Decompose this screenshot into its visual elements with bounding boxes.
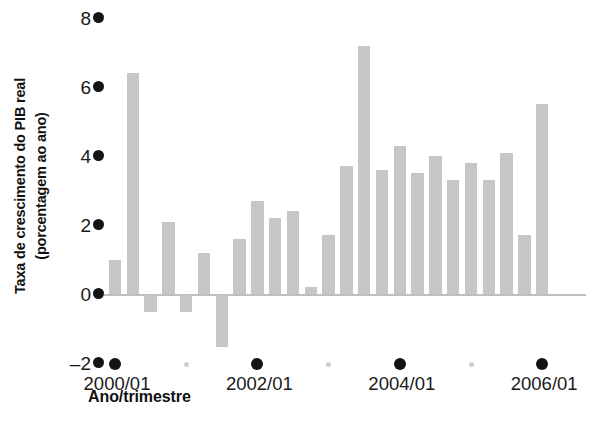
bar	[358, 46, 371, 294]
bar	[144, 295, 157, 312]
bar	[376, 170, 389, 294]
y-axis-tick: 0	[59, 284, 104, 304]
bar	[429, 156, 442, 294]
bar	[216, 295, 229, 347]
bar	[251, 201, 264, 294]
y-axis-tick-dot	[93, 81, 104, 92]
y-axis-tick-label: 4	[65, 147, 91, 167]
x-axis-tick-label: 2004/01	[347, 373, 457, 395]
y-axis-title-line-1: Taxa de crescimento do PIB real	[10, 78, 31, 294]
bar	[287, 211, 300, 294]
bar	[411, 173, 424, 294]
y-axis-tick: 8	[59, 8, 104, 28]
bar	[109, 260, 122, 295]
x-axis-minor-tick-dot	[326, 362, 331, 367]
y-axis-tick: 4	[59, 146, 104, 166]
x-axis-major-tick-dot	[536, 358, 548, 370]
y-axis-tick-label: 0	[65, 285, 91, 305]
bar	[447, 180, 460, 294]
y-axis-tick-dot	[93, 288, 104, 299]
y-axis-title-line-2: (porcentagem ao ano)	[31, 78, 52, 294]
bar	[483, 180, 496, 294]
bar	[233, 239, 246, 294]
bar	[180, 295, 193, 312]
plot-area	[104, 18, 586, 358]
bar	[269, 218, 282, 294]
y-axis-tick: –2	[59, 353, 104, 373]
y-axis-tick-dot	[93, 357, 104, 368]
x-axis-major-tick-dot	[251, 358, 263, 370]
y-axis-tick: 2	[59, 215, 104, 235]
bar	[162, 222, 175, 294]
bar	[305, 287, 318, 294]
y-axis-tick-dot	[93, 150, 104, 161]
x-axis-tick-label: 2006/01	[489, 373, 599, 395]
x-axis-major-tick-dot	[109, 358, 121, 370]
y-axis-tick-dot	[93, 12, 104, 23]
x-axis-title: Ano/trimestre	[88, 388, 191, 406]
bar	[500, 153, 513, 294]
y-axis-tick-label: 8	[65, 9, 91, 29]
x-axis-major-tick-dot	[394, 358, 406, 370]
bar	[340, 166, 353, 294]
bar	[322, 235, 335, 294]
y-axis-tick-label: 6	[65, 78, 91, 98]
y-axis-title: Taxa de crescimento do PIB real (porcent…	[0, 0, 62, 372]
y-axis-tick: 6	[59, 77, 104, 97]
x-axis-minor-tick-dot	[184, 362, 189, 367]
y-axis-tick-label: –2	[65, 354, 91, 374]
zero-baseline	[104, 294, 586, 296]
gdp-growth-bar-chart: Taxa de crescimento do PIB real (porcent…	[0, 0, 604, 432]
bar	[198, 253, 211, 294]
bar	[394, 146, 407, 294]
x-axis-tick-label: 2002/01	[204, 373, 314, 395]
bar	[465, 163, 478, 294]
x-axis-minor-tick-dot	[469, 362, 474, 367]
y-axis-tick-label: 2	[65, 216, 91, 236]
bar	[518, 235, 531, 294]
bar	[536, 104, 549, 294]
bar	[127, 73, 140, 294]
y-axis-tick-dot	[93, 219, 104, 230]
